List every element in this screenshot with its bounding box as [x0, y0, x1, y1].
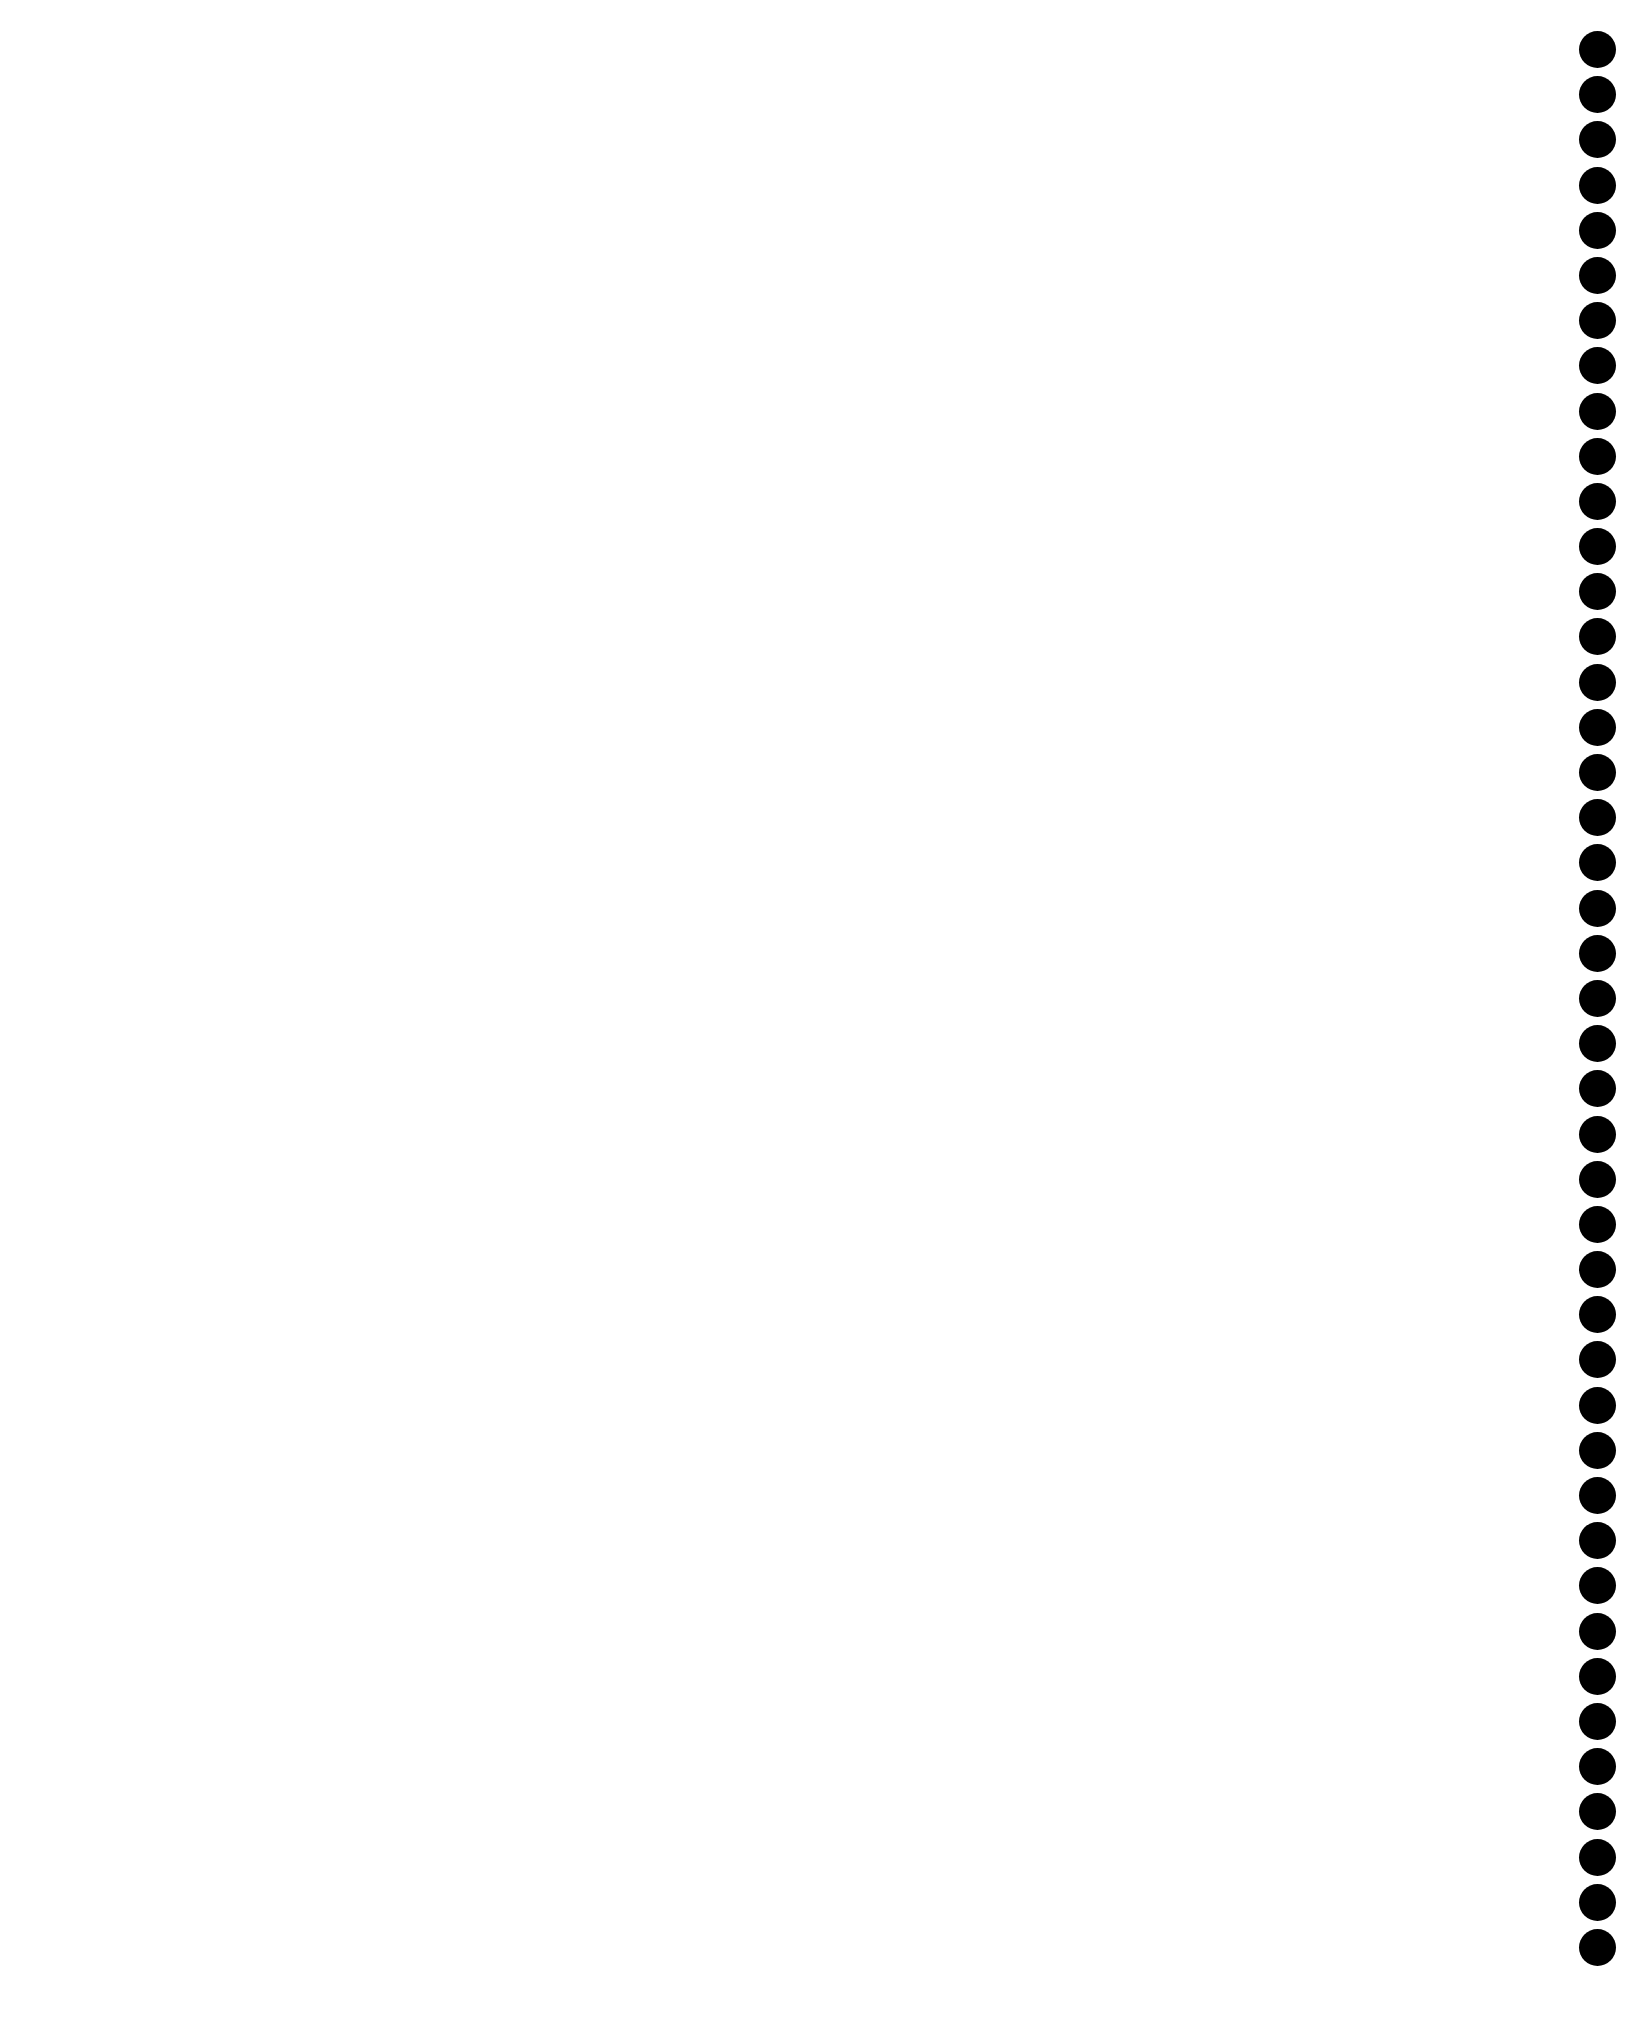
binding-hole-icon [1579, 618, 1616, 655]
binding-hole-icon [1579, 844, 1616, 881]
binding-hole-icon [1579, 799, 1616, 836]
binding-holes-column [1579, 31, 1617, 1966]
binding-hole-icon [1579, 1793, 1616, 1830]
binding-hole-icon [1579, 1116, 1616, 1153]
binding-hole-icon [1579, 709, 1616, 746]
binding-hole-icon [1579, 438, 1616, 475]
binding-hole-icon [1579, 1613, 1616, 1650]
binding-hole-icon [1579, 1748, 1616, 1785]
binding-hole-icon [1579, 483, 1616, 520]
binding-hole-icon [1579, 1387, 1616, 1424]
binding-hole-icon [1579, 528, 1616, 565]
binding-hole-icon [1579, 212, 1616, 249]
binding-hole-icon [1579, 1025, 1616, 1062]
binding-hole-icon [1579, 1251, 1616, 1288]
binding-hole-icon [1579, 167, 1616, 204]
binding-hole-icon [1579, 1567, 1616, 1604]
binding-hole-icon [1579, 1658, 1616, 1695]
binding-hole-icon [1579, 573, 1616, 610]
binding-hole-icon [1579, 754, 1616, 791]
binding-hole-icon [1579, 935, 1616, 972]
binding-hole-icon [1579, 1929, 1616, 1966]
binding-hole-icon [1579, 1070, 1616, 1107]
binding-hole-icon [1579, 1206, 1616, 1243]
binding-hole-icon [1579, 1839, 1616, 1876]
binding-hole-icon [1579, 257, 1616, 294]
binding-hole-icon [1579, 31, 1616, 68]
binding-hole-icon [1579, 302, 1616, 339]
binding-hole-icon [1579, 1884, 1616, 1921]
binding-hole-icon [1579, 76, 1616, 113]
binding-hole-icon [1579, 890, 1616, 927]
binding-hole-icon [1579, 347, 1616, 384]
blank-notebook-page [0, 0, 1634, 2040]
binding-hole-icon [1579, 1161, 1616, 1198]
binding-hole-icon [1579, 1703, 1616, 1740]
binding-hole-icon [1579, 980, 1616, 1017]
binding-hole-icon [1579, 664, 1616, 701]
binding-hole-icon [1579, 1432, 1616, 1469]
binding-hole-icon [1579, 1477, 1616, 1514]
binding-hole-icon [1579, 1296, 1616, 1333]
binding-hole-icon [1579, 393, 1616, 430]
binding-hole-icon [1579, 1522, 1616, 1559]
binding-hole-icon [1579, 1341, 1616, 1378]
binding-hole-icon [1579, 121, 1616, 158]
